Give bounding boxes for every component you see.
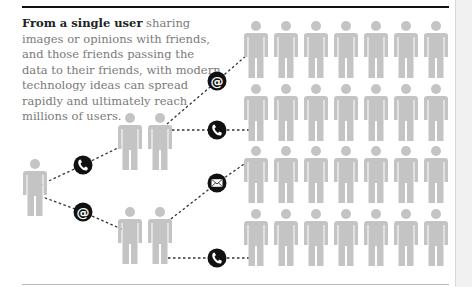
phone-icon xyxy=(74,156,93,175)
source-user-figure xyxy=(23,159,47,216)
envelope-icon xyxy=(208,174,227,193)
at-sign-icon: @ xyxy=(74,203,93,222)
friend-figure xyxy=(148,113,172,170)
svg-text:@: @ xyxy=(211,74,224,89)
friend-figure xyxy=(118,113,142,170)
phone-icon xyxy=(208,121,227,140)
phone-icon xyxy=(208,249,227,268)
svg-text:@: @ xyxy=(77,205,90,220)
at-sign-icon: @ xyxy=(208,72,227,91)
friend-figure xyxy=(148,207,172,264)
people xyxy=(23,21,448,266)
friend-figure xyxy=(118,207,142,264)
crowd-grid xyxy=(244,21,448,266)
